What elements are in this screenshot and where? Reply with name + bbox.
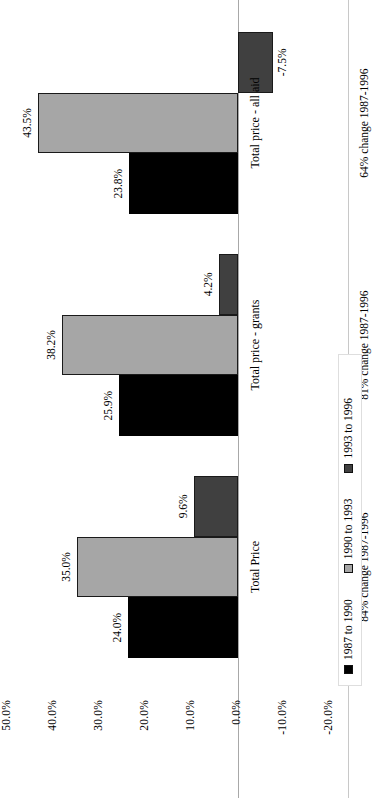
bar-2-1[interactable] [219, 254, 238, 315]
legend-label: 1993 to 1996 [342, 398, 354, 459]
legend-label: 1990 to 1993 [342, 499, 354, 560]
bar-value-label: 4.2% [202, 262, 214, 306]
bar-1-2[interactable] [38, 93, 238, 154]
bar-0-2[interactable] [129, 153, 238, 214]
bar-value-label: 24.0% [111, 606, 123, 650]
bar-chart-plot-area: 50.0%40.0%30.0%20.0%10.0%0.0%-10.0%-20.0… [0, 0, 378, 798]
zero-baseline [238, 0, 239, 798]
legend-item-0[interactable]: 1987 to 1990 [342, 599, 354, 674]
bar-value-label: 9.6% [177, 484, 189, 528]
y-axis-tick-label: 50.0% [0, 700, 12, 760]
bar-value-label: 38.2% [45, 323, 57, 367]
y-axis-tick-label: 10.0% [184, 700, 196, 760]
legend-item-1[interactable]: 1990 to 1993 [342, 499, 354, 574]
legend-swatch-icon [344, 665, 353, 674]
bar-value-label: 23.8% [112, 162, 124, 206]
y-axis-tick-label: 20.0% [138, 700, 150, 760]
legend: 1987 to 19901990 to 19931993 to 1996 [342, 398, 354, 674]
bar-0-0[interactable] [128, 597, 238, 658]
bar-value-label: -7.5% [276, 40, 288, 84]
chart-canvas: 50.0%40.0%30.0%20.0%10.0%0.0%-10.0%-20.0… [0, 0, 378, 798]
bar-2-0[interactable] [194, 476, 238, 537]
bar-0-1[interactable] [119, 375, 238, 436]
bar-1-0[interactable] [77, 537, 238, 598]
legend-item-2[interactable]: 1993 to 1996 [342, 398, 354, 473]
category-label: Total price - grants [248, 234, 263, 456]
bar-value-label: 43.5% [21, 101, 33, 145]
y-axis-tick-label: 30.0% [92, 700, 104, 760]
legend-swatch-icon [344, 564, 353, 573]
bar-value-label: 35.0% [60, 545, 72, 589]
y-axis-tick-label: -10.0% [276, 700, 288, 760]
legend-label: 1987 to 1990 [342, 599, 354, 660]
category-label: Total Price [248, 456, 263, 678]
y-axis-tick-label: 0.0% [230, 700, 242, 760]
category-label: Total price - all aid [248, 12, 263, 234]
legend-swatch-icon [344, 464, 353, 473]
y-axis-tick-label: -20.0% [322, 700, 334, 760]
change-annotation: 64% change 1987-1996 [358, 12, 370, 234]
bar-1-1[interactable] [62, 315, 238, 376]
y-axis-tick-label: 40.0% [46, 700, 58, 760]
bar-value-label: 25.9% [102, 384, 114, 428]
chart-rotated-layer: 50.0%40.0%30.0%20.0%10.0%0.0%-10.0%-20.0… [0, 0, 378, 798]
